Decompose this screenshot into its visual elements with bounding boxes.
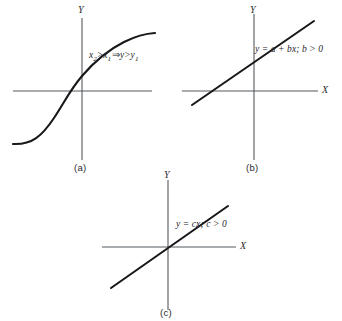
panel-c-axes (102, 180, 236, 310)
x-axis-label: X (240, 241, 246, 251)
y-axis-label: Y (78, 5, 84, 15)
panel-a-annotation: x2>x1⇒y>y1 (89, 51, 139, 63)
x-axis-label: X (322, 85, 328, 95)
panel-b: Y X y = a + bx; b > 0 (b) (176, 0, 342, 178)
panel-a: Y x2>x1⇒y>y1 (a) (0, 0, 176, 178)
panel-c-caption: (c) (160, 308, 172, 318)
panel-b-annotation: y = a + bx; b > 0 (255, 45, 323, 55)
regression-line (192, 21, 314, 105)
panel-c: Y X y = cx; c > 0 (c) (88, 170, 264, 321)
annotation-y1: y1 (131, 50, 139, 60)
annotation-x2: x2 (89, 50, 97, 60)
annotation-rel-2: > (124, 50, 130, 60)
panel-c-annotation: y = cx; c > 0 (176, 220, 227, 230)
panel-b-axes (182, 14, 318, 160)
figure-root: Y x2>x1⇒y>y1 (a) Y X y = a + bx; b > 0 (… (0, 0, 342, 321)
annotation-y1-sub: 1 (135, 55, 139, 63)
annotation-x1: x1 (103, 50, 111, 60)
annotation-implies: ⇒ (111, 50, 120, 60)
panel-a-caption: (a) (74, 163, 87, 173)
y-axis-label: Y (164, 170, 170, 180)
y-axis-label: Y (250, 5, 256, 15)
